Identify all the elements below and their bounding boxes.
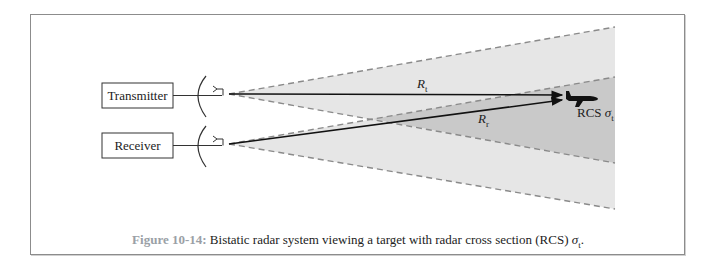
caption-end: . bbox=[581, 232, 584, 247]
range-receive-label: Rr bbox=[478, 111, 489, 129]
figure-caption: Figure 10-14: Bistatic radar system view… bbox=[0, 232, 716, 250]
range-transmit-symbol: R bbox=[417, 76, 425, 91]
receiver-feed-icon bbox=[213, 136, 223, 146]
transmitter-dish-icon bbox=[198, 76, 206, 117]
range-receive-symbol: R bbox=[478, 111, 486, 126]
transmitter-label: Transmitter bbox=[102, 83, 173, 108]
range-transmit-subscript: t bbox=[425, 84, 428, 94]
range-arrow-transmit bbox=[229, 94, 562, 95]
caption-figure-number: Figure 10-14: bbox=[132, 232, 207, 247]
target-sigma-subscript: t bbox=[611, 113, 614, 123]
caption-text: Bistatic radar system viewing a target w… bbox=[207, 232, 572, 247]
receiver-dish-icon bbox=[198, 126, 206, 167]
range-transmit-label: Rt bbox=[417, 76, 427, 94]
target-rcs-label: RCS σt bbox=[577, 105, 614, 123]
range-receive-subscript: r bbox=[486, 119, 489, 129]
transmitter-feed-icon bbox=[213, 86, 223, 96]
receiver-label: Receiver bbox=[102, 133, 173, 158]
target-rcs-prefix: RCS bbox=[577, 105, 605, 120]
